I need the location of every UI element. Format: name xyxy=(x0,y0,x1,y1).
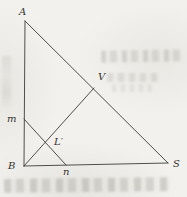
point-label-L-prime: L′ xyxy=(53,136,64,147)
segment-group xyxy=(24,21,168,166)
point-label-m: m xyxy=(7,113,16,124)
scanned-page: A B S V m n L′ xyxy=(0,0,187,197)
vertex-label-S: S xyxy=(173,158,180,169)
segment-B-V xyxy=(24,88,94,166)
segment-A-S xyxy=(25,21,168,163)
segment-A-B xyxy=(24,21,25,166)
vertex-label-B: B xyxy=(7,160,15,171)
point-label-V: V xyxy=(98,71,107,82)
point-label-n: n xyxy=(63,166,69,177)
segment-B-S xyxy=(24,163,168,166)
triangle-diagram-svg: A B S V m n L′ xyxy=(0,0,187,197)
vertex-label-A: A xyxy=(18,6,26,17)
